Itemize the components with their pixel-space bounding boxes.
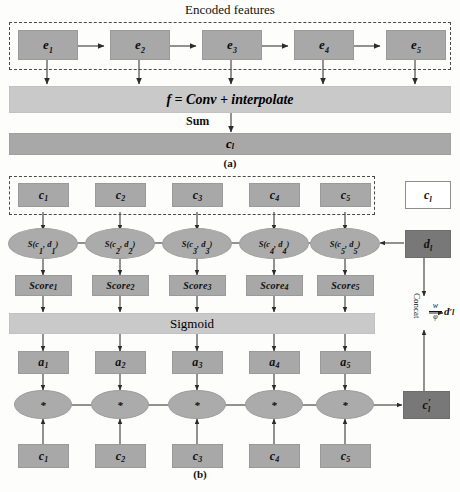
concat-label: Concat bbox=[412, 293, 422, 319]
similarity-node-2-fn: S bbox=[105, 239, 110, 249]
score-node-2: Score2 bbox=[92, 275, 149, 296]
multiply-node-4: * bbox=[245, 390, 303, 419]
refined-context-node-cl: c′l bbox=[403, 391, 450, 419]
node-c1-top-sub: 1 bbox=[44, 194, 48, 203]
similarity-node-5-arg1sub: 5 bbox=[341, 247, 345, 256]
attention-node-1-sub: 1 bbox=[45, 361, 49, 370]
similarity-node-5-arg2sub: 5 bbox=[354, 247, 358, 256]
similarity-node-3-arg1sub: 3 bbox=[193, 247, 197, 256]
similarity-node-2-arg2sub: 2 bbox=[129, 247, 133, 256]
node-c3-bottom-sub: 3 bbox=[198, 455, 202, 464]
similarity-node-4-arg2sub: 4 bbox=[283, 247, 287, 256]
multiply-node-3-label: * bbox=[194, 399, 200, 411]
attention-node-2-sub: 2 bbox=[122, 361, 126, 370]
attention-node-4: a4 bbox=[249, 351, 300, 374]
node-c1-top: c1 bbox=[18, 183, 69, 207]
node-e1: e1 bbox=[18, 30, 78, 60]
conv-interpolate-bar: f = Conv + interpolate bbox=[9, 86, 451, 113]
similarity-node-1: S(c1, d1) bbox=[8, 228, 78, 259]
panel-b-caption: (b) bbox=[0, 468, 400, 480]
score-node-1-label: Score bbox=[29, 280, 53, 291]
conv-interpolate-label: f = Conv + interpolate bbox=[166, 92, 293, 108]
node-c3-top-sub: 3 bbox=[198, 194, 202, 203]
score-node-3-label: Score bbox=[183, 280, 207, 291]
score-node-3: Score3 bbox=[169, 275, 226, 296]
node-e5-sub: 5 bbox=[417, 46, 421, 55]
attention-node-3: a3 bbox=[172, 351, 223, 374]
similarity-node-4-fn: S bbox=[259, 239, 264, 249]
attention-node-4-sub: 4 bbox=[276, 361, 280, 370]
multiply-node-1-label: * bbox=[40, 399, 46, 411]
node-e4-sub: 4 bbox=[325, 46, 329, 55]
sigmoid-label: Sigmoid bbox=[170, 316, 214, 332]
similarity-node-2-arg1sub: 2 bbox=[116, 247, 120, 256]
multiply-node-1: * bbox=[14, 390, 72, 419]
similarity-node-2: S(c2, d2) bbox=[85, 228, 155, 259]
multiply-node-5-label: * bbox=[342, 399, 348, 411]
similarity-node-1-arg1sub: 1 bbox=[39, 247, 43, 256]
transform-numerator: w bbox=[433, 302, 438, 310]
node-e2: e2 bbox=[110, 30, 170, 60]
similarity-node-1-arg2sub: 1 bbox=[52, 247, 56, 256]
similarity-node-5-fn: S bbox=[330, 239, 335, 249]
query-node-dl: dl bbox=[405, 230, 451, 258]
score-node-2-label: Score bbox=[106, 280, 130, 291]
panel-a-title: Encoded features bbox=[0, 2, 460, 18]
fused-context-sub: l bbox=[232, 142, 234, 151]
legend-node-cl: cl bbox=[405, 181, 451, 209]
refined-query-node-dl: d′l bbox=[444, 305, 454, 317]
similarity-node-3-fn: S bbox=[182, 239, 187, 249]
node-c5-top: c5 bbox=[320, 183, 371, 207]
similarity-node-4-arg1sub: 4 bbox=[270, 247, 274, 256]
refined-query-sub: l bbox=[452, 308, 454, 317]
multiply-node-2: * bbox=[91, 390, 149, 419]
node-e5: e5 bbox=[386, 30, 446, 60]
panel-a-caption: (a) bbox=[0, 157, 460, 169]
node-c2-bottom: c2 bbox=[95, 444, 146, 468]
node-c2-top-sub: 2 bbox=[121, 194, 125, 203]
refined-context-sub: l bbox=[428, 405, 430, 414]
score-node-1-sub: 1 bbox=[54, 283, 58, 292]
node-c3-top: c3 bbox=[172, 183, 223, 207]
sigmoid-bar: Sigmoid bbox=[9, 313, 375, 334]
node-c2-bottom-sub: 2 bbox=[121, 455, 125, 464]
multiply-node-5: * bbox=[316, 390, 374, 419]
node-c4-bottom-sub: 4 bbox=[275, 455, 279, 464]
attention-node-3-sub: 3 bbox=[199, 361, 203, 370]
node-c4-bottom: c4 bbox=[249, 444, 300, 468]
sum-label: Sum bbox=[186, 114, 209, 129]
similarity-node-5: S(c5, d5) bbox=[310, 228, 380, 259]
legend-node-cl-sub: l bbox=[430, 195, 432, 204]
query-node-dl-sub: l bbox=[430, 244, 432, 253]
node-c4-top-sub: 4 bbox=[275, 194, 279, 203]
score-node-2-sub: 2 bbox=[131, 283, 135, 292]
score-node-5: Score5 bbox=[317, 275, 374, 296]
attention-node-5: a5 bbox=[320, 351, 371, 374]
node-c3-bottom: c3 bbox=[172, 444, 223, 468]
node-e4: e4 bbox=[294, 30, 354, 60]
node-e1-sub: 1 bbox=[49, 46, 53, 55]
node-e2-sub: 2 bbox=[141, 46, 145, 55]
node-c4-top: c4 bbox=[249, 183, 300, 207]
score-node-1: Score1 bbox=[15, 275, 72, 296]
score-node-3-sub: 3 bbox=[208, 283, 212, 292]
multiply-node-3: * bbox=[168, 390, 226, 419]
node-c2-top: c2 bbox=[95, 183, 146, 207]
node-c1-bottom-sub: 1 bbox=[44, 455, 48, 464]
multiply-node-4-label: * bbox=[271, 399, 277, 411]
node-c5-bottom: c5 bbox=[320, 444, 371, 468]
score-node-4-label: Score bbox=[260, 280, 284, 291]
similarity-node-4: S(c4, d4) bbox=[239, 228, 309, 259]
transform-fraction: w φ bbox=[429, 302, 442, 321]
attention-node-2: a2 bbox=[95, 351, 146, 374]
attention-node-1: a1 bbox=[18, 351, 69, 374]
score-node-5-sub: 5 bbox=[356, 283, 360, 292]
transform-denominator: φ bbox=[433, 313, 437, 321]
fused-context-bar: cl bbox=[9, 133, 451, 155]
similarity-node-3-arg2sub: 3 bbox=[206, 247, 210, 256]
node-c5-bottom-sub: 5 bbox=[346, 455, 350, 464]
score-node-4: Score4 bbox=[246, 275, 303, 296]
score-node-5-label: Score bbox=[331, 280, 355, 291]
node-e3-sub: 3 bbox=[233, 46, 237, 55]
node-c1-bottom: c1 bbox=[18, 444, 69, 468]
